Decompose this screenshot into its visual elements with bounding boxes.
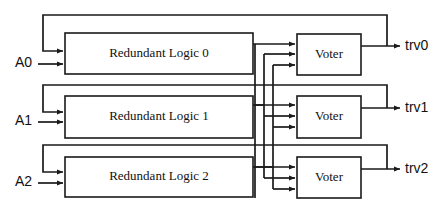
input-label-a2: A2	[15, 173, 32, 189]
input-label-a1: A1	[15, 112, 32, 128]
voter-1-label: Voter	[315, 108, 344, 123]
input-label-a0: A0	[15, 54, 32, 70]
voter-0-label: Voter	[315, 46, 344, 61]
redundant-logic-0-label: Redundant Logic 0	[109, 45, 209, 60]
output-label-trv0: trv0	[405, 37, 429, 53]
tmr-block-diagram: Redundant Logic 0 Voter trv0 Redundant L…	[0, 0, 440, 218]
voter-2-label: Voter	[315, 169, 344, 184]
diagram-canvas: Redundant Logic 0 Voter trv0 Redundant L…	[0, 0, 440, 218]
redundant-logic-2-label: Redundant Logic 2	[109, 168, 209, 183]
redundant-logic-1-label: Redundant Logic 1	[109, 108, 209, 123]
output-label-trv1: trv1	[405, 99, 429, 115]
output-label-trv2: trv2	[405, 160, 429, 176]
